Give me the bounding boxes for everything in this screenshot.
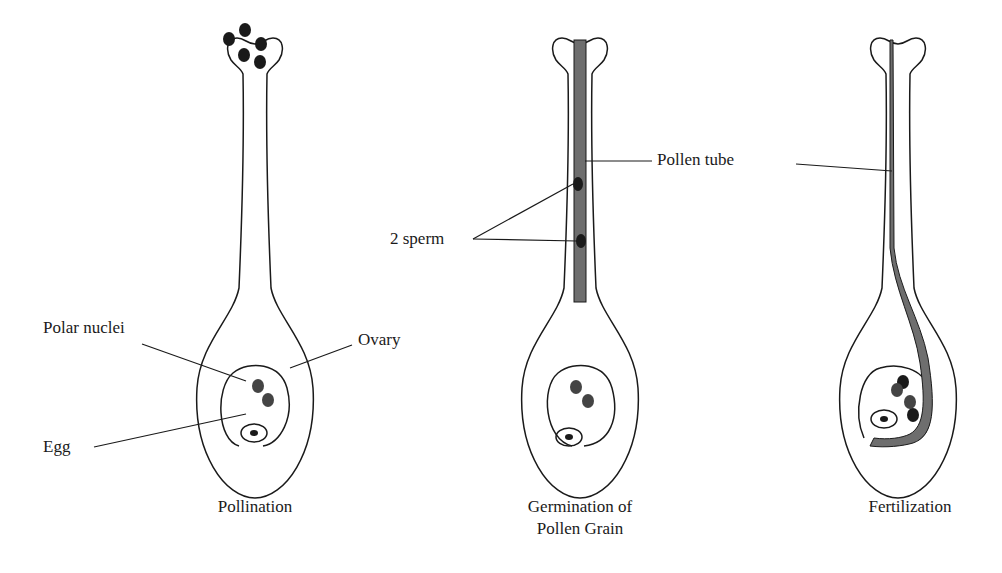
label-polar-nuclei: Polar nuclei — [43, 318, 125, 338]
pollen-grains — [223, 23, 267, 69]
caption-germination-line1: Germination of — [505, 496, 655, 518]
label-egg: Egg — [43, 437, 70, 457]
caption-germination-line2: Pollen Grain — [505, 518, 655, 540]
pistil-germination — [522, 38, 639, 498]
pistil-fertilization — [840, 38, 957, 498]
label-two-sperm: 2 sperm — [390, 229, 444, 249]
caption-fertilization: Fertilization — [845, 496, 975, 518]
label-ovary: Ovary — [358, 330, 400, 350]
caption-germination: Germination of Pollen Grain — [505, 496, 655, 540]
label-pollen-tube: Pollen tube — [657, 150, 734, 170]
diagram-canvas — [0, 0, 1002, 573]
pistil-pollination — [197, 38, 314, 498]
caption-pollination: Pollination — [190, 496, 320, 518]
leader-lines — [94, 161, 892, 447]
